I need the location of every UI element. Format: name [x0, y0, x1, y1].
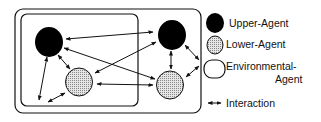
legend-upper-label: Upper-Agent [229, 17, 289, 29]
legend-lower-icon [207, 36, 223, 54]
lower-agent-left [66, 68, 93, 96]
legend-environment-label-1: Environmental- [226, 60, 297, 72]
legend-lower-label: Lower-Agent [226, 38, 286, 50]
legend-environment-label-2: Agent [275, 73, 302, 85]
upper-agent-right [158, 20, 186, 50]
legend-environment-icon [204, 60, 225, 78]
legend-upper-icon [206, 13, 224, 33]
upper-agent-left [35, 27, 63, 57]
legend-interaction-label: Interaction [226, 97, 275, 109]
lower-agent-right [157, 71, 184, 99]
